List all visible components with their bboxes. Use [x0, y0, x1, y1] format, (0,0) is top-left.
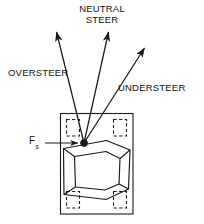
understeer-arrow — [84, 48, 145, 143]
diagram-canvas — [0, 0, 204, 224]
bevel-rear-right — [119, 184, 129, 189]
neutral-steer-label-line1: NEUTRAL — [79, 3, 125, 14]
oversteer-label: OVERSTEER — [8, 67, 68, 78]
wheel-front-left-icon — [67, 120, 80, 137]
neutral-steer-label: NEUTRAL STEER — [0, 3, 204, 25]
bevel-front-right — [120, 150, 130, 159]
side-force-label: Fs — [29, 135, 39, 150]
bevel-rear-left — [64, 187, 76, 195]
wheel-front-right-icon — [114, 120, 127, 137]
side-force-subscript: s — [36, 143, 39, 150]
neutral-steer-arrow — [84, 32, 109, 143]
vehicle-body — [64, 141, 131, 200]
center-of-gravity-marker — [81, 140, 88, 147]
steer-response-diagram: NEUTRAL STEER OVERSTEER UNDERSTEER Fs — [0, 0, 204, 224]
understeer-label: UNDERSTEER — [118, 82, 185, 93]
neutral-steer-label-line2: STEER — [0, 14, 204, 25]
bevel-front-left — [64, 149, 75, 157]
side-force-symbol: F — [29, 135, 35, 146]
wheel-rear-right-icon — [114, 192, 127, 209]
body-inner-edge — [75, 152, 121, 191]
wheel-rear-left-icon — [67, 192, 80, 209]
